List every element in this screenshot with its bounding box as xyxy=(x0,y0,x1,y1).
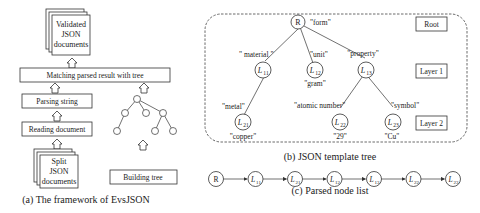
list-node: L11 xyxy=(248,172,263,187)
framework-panel: Validated JSON documents Matching parsed… xyxy=(20,9,177,206)
svg-text:12: 12 xyxy=(315,70,321,76)
list-node-label: L xyxy=(250,175,255,184)
svg-text:L: L xyxy=(309,66,315,75)
list-node: R xyxy=(209,172,224,187)
svg-text:L: L xyxy=(237,118,243,127)
root-value: "form" xyxy=(310,18,331,27)
split-documents-stack: Split JSON documents xyxy=(34,149,78,188)
validated-docs-line3: documents xyxy=(54,40,89,49)
framework-caption: (a) The framework of EvsJSON xyxy=(22,194,150,206)
up-arrow-icon xyxy=(50,83,60,93)
parsing-label: Parsing string xyxy=(36,97,78,106)
building-label: Building tree xyxy=(123,173,163,182)
tree-node-root: R "form" xyxy=(291,15,331,29)
reading-label: Reading document xyxy=(29,125,86,134)
svg-text:L: L xyxy=(257,66,263,75)
list-node-label: R xyxy=(213,175,218,184)
diagram-canvas: Validated JSON documents Matching parsed… xyxy=(0,0,480,213)
split-docs-line2: JSON xyxy=(49,167,68,176)
edge-label-symbol: "symbol" xyxy=(391,101,419,110)
svg-text:13: 13 xyxy=(366,70,372,76)
tree-node-l21: "metal" L 21 "copper" xyxy=(222,102,256,141)
list-node: L22 xyxy=(406,172,421,187)
svg-text:L: L xyxy=(360,66,366,75)
list-node-subscript: 11 xyxy=(256,180,261,185)
list-node-label: L xyxy=(289,175,294,184)
template-tree-caption: (b) JSON template tree xyxy=(284,151,377,163)
up-arrow-icon xyxy=(67,58,77,68)
svg-text:R: R xyxy=(295,18,301,27)
validated-docs-line2: JSON xyxy=(61,30,80,39)
split-docs-line1: Split xyxy=(51,157,67,166)
svg-text:22: 22 xyxy=(340,122,346,128)
node-list-caption: (c) Parsed node list xyxy=(292,185,369,197)
layer-label-2: Layer 2 xyxy=(416,116,447,130)
list-node-label: L xyxy=(368,175,373,184)
edge-label-property: "property" xyxy=(347,49,379,58)
tree-illustration xyxy=(114,96,177,135)
matching-label: Matching parsed result with tree xyxy=(46,71,144,80)
edge-label-unit: "unit" xyxy=(310,50,328,59)
tree-node-l11: " material " L 11 xyxy=(239,50,273,78)
svg-text:Layer 2: Layer 2 xyxy=(420,119,443,128)
up-arrow-icon xyxy=(52,111,62,121)
list-node-label: L xyxy=(447,175,452,184)
list-node-label: L xyxy=(329,175,334,184)
list-node-subscript: 21 xyxy=(296,180,302,185)
validated-docs-line1: Validated xyxy=(56,20,86,29)
value-29: "29" xyxy=(333,132,347,141)
list-node-subscript: 13 xyxy=(375,180,381,185)
split-docs-line3: documents xyxy=(42,177,77,186)
list-node-subscript: 22 xyxy=(414,180,420,185)
edge-label-metal: "metal" xyxy=(222,102,245,111)
layer-label-root: Root xyxy=(416,17,447,31)
edge-label-atomic-number: "atomic number" xyxy=(294,101,345,110)
list-node-label: L xyxy=(408,175,413,184)
value-cu: "Cu" xyxy=(385,132,400,141)
validated-documents-stack: Validated JSON documents xyxy=(46,9,90,55)
svg-text:11: 11 xyxy=(263,70,269,76)
svg-text:Root: Root xyxy=(424,20,440,29)
list-node-subscript: 23 xyxy=(454,180,460,185)
svg-text:23: 23 xyxy=(393,122,399,128)
value-copper: "copper" xyxy=(230,132,257,141)
tree-node-l12: "unit" L 12 "gram" xyxy=(304,50,328,88)
svg-text:Layer 1: Layer 1 xyxy=(420,67,443,76)
layer-label-1: Layer 1 xyxy=(416,64,447,78)
up-arrow-icon xyxy=(52,139,62,149)
up-arrow-icon xyxy=(139,83,149,93)
svg-text:21: 21 xyxy=(243,122,249,128)
template-tree-panel: R "form" " material " L 11 "unit" L 12 "… xyxy=(205,14,467,163)
list-node: L13 xyxy=(367,172,382,187)
up-arrow-icon xyxy=(138,140,148,150)
list-node-subscript: 12 xyxy=(335,180,341,185)
value-gram: "gram" xyxy=(304,79,326,88)
tree-node-l23: "symbol" L 23 "Cu" xyxy=(385,101,420,141)
svg-text:L: L xyxy=(387,118,393,127)
tree-node-l13: "property" L 13 xyxy=(347,49,379,78)
list-node: L23 xyxy=(446,172,461,187)
svg-text:L: L xyxy=(334,118,340,127)
edge-label-material: " material " xyxy=(239,50,273,59)
tree-node-l22: "atomic number" L 22 "29" xyxy=(294,101,348,141)
